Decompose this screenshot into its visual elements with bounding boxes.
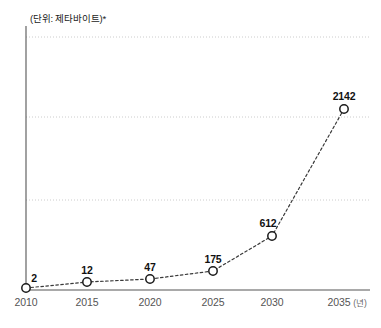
x-axis-tick-label: 2035 (년) bbox=[328, 296, 367, 308]
data-point-markers bbox=[22, 105, 348, 292]
data-point-value-label: 175 bbox=[205, 253, 222, 265]
data-point-marker bbox=[22, 284, 30, 292]
x-axis-tick-label: 2020 bbox=[139, 296, 162, 308]
data-point-value-label: 2 bbox=[31, 272, 37, 284]
chart-axes bbox=[26, 26, 370, 290]
data-point-value-label: 2142 bbox=[333, 90, 356, 102]
data-point-marker bbox=[83, 278, 91, 286]
x-axis-tick-label: 2025 bbox=[202, 296, 225, 308]
series-polyline bbox=[26, 109, 344, 288]
data-point-value-label: 12 bbox=[81, 264, 92, 276]
data-point-marker bbox=[340, 105, 348, 113]
x-axis-tick-label: 2030 bbox=[261, 296, 284, 308]
data-point-marker bbox=[209, 267, 217, 275]
x-axis-tick-label: 2010 bbox=[15, 296, 38, 308]
data-point-marker bbox=[268, 232, 276, 240]
chart-plot-area bbox=[0, 0, 381, 328]
x-axis-tick-label: 2015 bbox=[76, 296, 99, 308]
data-point-value-label: 47 bbox=[144, 261, 155, 273]
data-point-value-label: 612 bbox=[260, 217, 277, 229]
chart-container: (단위: 제타바이트)* 201020152020202520302035 (년… bbox=[0, 0, 381, 328]
data-series-line bbox=[26, 109, 344, 288]
x-axis-tick-label-text: 2035 bbox=[328, 296, 354, 308]
x-axis-unit-label: (년) bbox=[353, 298, 366, 308]
gridlines bbox=[26, 37, 370, 200]
data-point-marker bbox=[146, 275, 154, 283]
